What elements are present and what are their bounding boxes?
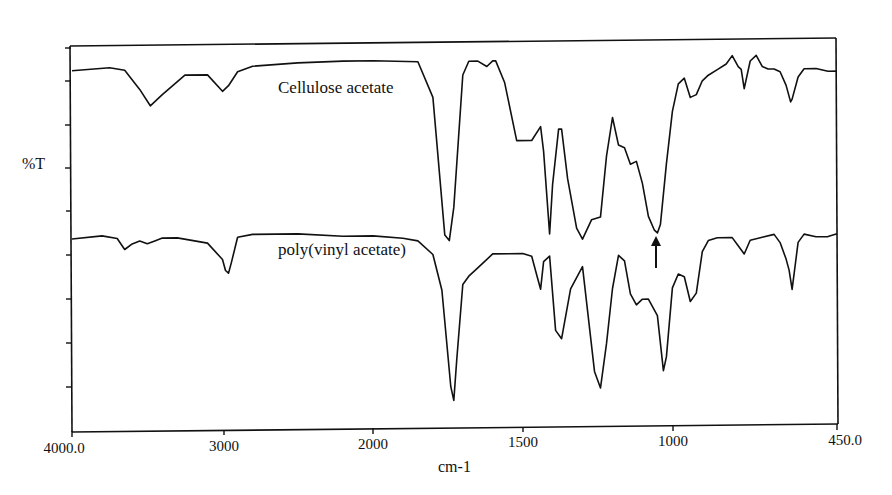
top-axis-line bbox=[70, 38, 836, 46]
y-axis-line bbox=[70, 46, 72, 432]
y-axis-label: %T bbox=[22, 155, 45, 173]
x-tick-label-450: 450.0 bbox=[828, 432, 862, 449]
series-line-poly-vinyl-acetate bbox=[72, 234, 837, 401]
plot-frame bbox=[70, 38, 838, 432]
x-tick-label-4000: 4000.0 bbox=[43, 440, 84, 457]
series-line-cellulose-acetate bbox=[72, 55, 837, 240]
x-tick-label-1500: 1500 bbox=[508, 434, 538, 451]
x-axis-line bbox=[72, 424, 838, 432]
x-axis-label: cm-1 bbox=[438, 458, 471, 476]
x-tick-label-3000: 3000 bbox=[209, 438, 239, 455]
x-tick-label-2000: 2000 bbox=[358, 436, 388, 453]
right-axis-line bbox=[836, 38, 838, 424]
series-label-cellulose-acetate: Cellulose acetate bbox=[278, 78, 394, 98]
x-tick-label-1000: 1000 bbox=[658, 433, 688, 450]
series-label-poly-vinyl-acetate: poly(vinyl acetate) bbox=[278, 240, 406, 260]
arrow-annotation bbox=[651, 236, 661, 268]
ir-spectrum-chart bbox=[0, 0, 892, 495]
series-layer bbox=[72, 55, 837, 400]
